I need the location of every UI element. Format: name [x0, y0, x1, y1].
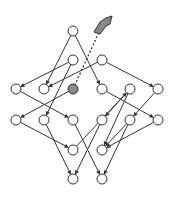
node [68, 145, 78, 155]
node [97, 84, 107, 94]
node [97, 145, 107, 155]
node [97, 115, 107, 125]
node [11, 115, 21, 125]
node [68, 174, 78, 184]
large-arrow-icon [94, 16, 112, 34]
node [97, 55, 107, 65]
lattice-diagram [0, 0, 177, 197]
node [39, 84, 49, 94]
node [153, 84, 163, 94]
node [68, 26, 78, 36]
node [68, 115, 78, 125]
node [125, 115, 135, 125]
node [97, 174, 107, 184]
node [11, 84, 21, 94]
node [68, 84, 78, 94]
node [153, 115, 163, 125]
node [125, 84, 135, 94]
node [68, 55, 78, 65]
node [39, 115, 49, 125]
